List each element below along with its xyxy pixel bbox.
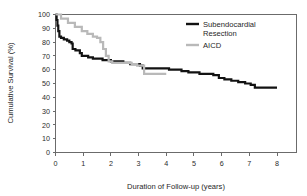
figure-container: 0102030405060708090100 012345678 Cumulat… bbox=[0, 0, 307, 196]
y-tick-label: 90 bbox=[42, 24, 50, 33]
legend-label-subendocardial-line1: Subendocardial bbox=[203, 20, 256, 29]
survival-curve-chart: 0102030405060708090100 012345678 Cumulat… bbox=[0, 0, 307, 196]
y-axis-title: Cumulative Survival (%) bbox=[6, 42, 15, 123]
y-tick-label: 30 bbox=[42, 107, 50, 116]
legend-label-subendocardial-line2: Resection bbox=[203, 29, 237, 38]
x-tick-label: 6 bbox=[220, 159, 224, 168]
y-tick-label: 50 bbox=[42, 79, 50, 88]
y-tick-label: 100 bbox=[38, 10, 50, 19]
x-tick-label: 8 bbox=[275, 159, 279, 168]
y-tick-label: 20 bbox=[42, 121, 50, 130]
x-tick-label: 2 bbox=[109, 159, 113, 168]
y-tick-label: 0 bbox=[46, 148, 50, 157]
x-axis-title: Duration of Follow-up (years) bbox=[127, 182, 225, 191]
y-axis-ticks: 0102030405060708090100 bbox=[38, 10, 56, 157]
legend: Subendocardial Resection AICD bbox=[186, 20, 256, 50]
x-tick-label: 1 bbox=[81, 159, 85, 168]
x-tick-label: 3 bbox=[137, 159, 141, 168]
y-tick-label: 70 bbox=[42, 52, 50, 61]
x-tick-label: 7 bbox=[247, 159, 251, 168]
x-tick-label: 5 bbox=[192, 159, 196, 168]
y-tick-label: 60 bbox=[42, 65, 50, 74]
legend-label-aicd: AICD bbox=[203, 41, 222, 50]
plot-frame bbox=[56, 15, 297, 153]
y-tick-label: 40 bbox=[42, 93, 50, 102]
y-tick-label: 80 bbox=[42, 38, 50, 47]
y-tick-label: 10 bbox=[42, 134, 50, 143]
x-axis-ticks: 012345678 bbox=[54, 153, 280, 168]
x-tick-label: 4 bbox=[164, 159, 168, 168]
x-tick-label: 0 bbox=[54, 159, 58, 168]
